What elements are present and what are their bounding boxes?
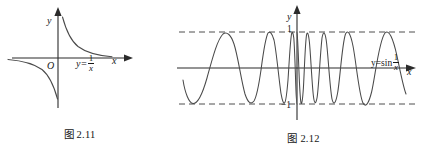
curve-label-lhs: y=: [76, 58, 87, 69]
curve-label-sin-inverse-x: y=sin1x: [371, 53, 400, 72]
fraction-one-over-x: 1x: [393, 53, 400, 72]
x-axis-label: x: [112, 55, 116, 66]
y-tick-negative-one: −1: [281, 100, 291, 110]
origin-label: O: [47, 60, 54, 71]
curve-label-lhs: y=sin: [371, 58, 392, 68]
fraction-denominator: x: [88, 64, 95, 73]
caption-figure-2-12: 图 2.12: [179, 130, 424, 145]
hyperbola-branch-positive: [63, 17, 113, 57]
figure-page: x y O y=1x 图 2.11: [0, 0, 424, 159]
curve-label-inverse-x: y=1x: [76, 54, 95, 73]
figure-2-11: x y O y=1x 图 2.11: [0, 0, 175, 159]
fraction-one-over-x: 1x: [88, 54, 95, 73]
caption-figure-2-11: 图 2.11: [0, 126, 167, 141]
y-axis-label: y: [47, 15, 51, 26]
y-axis-label: y: [287, 11, 291, 22]
fraction-denominator: x: [393, 63, 400, 72]
y-tick-positive-one: 1: [287, 24, 292, 34]
x-axis-label: x: [407, 66, 411, 77]
figure-2-12: x y 1 −1 y=sin1x 图 2.12: [175, 0, 424, 159]
